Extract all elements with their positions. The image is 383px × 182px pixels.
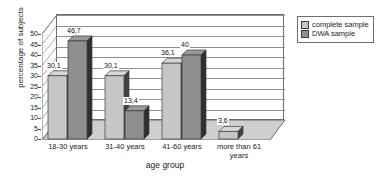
legend-label: complete sample: [312, 21, 369, 29]
bar[interactable]: [68, 36, 92, 139]
bar-front-face: [182, 55, 201, 139]
x-tick-label: 31-40 years: [98, 142, 152, 151]
bar-chart: percentage of subjects 05101520253035404…: [0, 0, 383, 182]
bar-side-face: [87, 36, 92, 139]
y-tick-label: 15: [22, 104, 38, 111]
y-tick-label: 45: [22, 41, 38, 48]
bar-value-label: 46,7: [66, 27, 82, 35]
bar-side-face: [201, 50, 206, 139]
bar-value-label: 3,6: [217, 117, 229, 125]
bar-front-face: [105, 76, 124, 139]
x-axis-ticks: 18-30 years31-40 years41-60 yearsmore th…: [42, 140, 292, 162]
y-tick-label: 25: [22, 83, 38, 90]
bar-value-label: 13,4: [123, 97, 139, 105]
chart-legend: complete sample DWA sample: [297, 16, 374, 43]
y-tick-mark: [38, 55, 41, 56]
x-tick-label: more than 61 years: [212, 142, 266, 160]
legend-item[interactable]: DWA sample: [301, 30, 369, 38]
bar[interactable]: [219, 126, 243, 139]
y-tick-mark: [38, 108, 41, 109]
bar-side-face: [144, 106, 149, 139]
y-tick-mark: [38, 45, 41, 46]
y-tick-label: 0: [22, 135, 38, 142]
y-tick-mark: [38, 76, 41, 77]
legend-item[interactable]: complete sample: [301, 21, 369, 29]
y-tick-mark: [38, 97, 41, 98]
legend-swatch-icon: [301, 21, 309, 29]
y-axis-ticks: 05101520253035404550: [20, 0, 38, 182]
x-axis-title: age group: [40, 160, 290, 170]
legend-label: DWA sample: [312, 30, 355, 38]
bar-front-face: [125, 111, 144, 139]
y-tick-mark: [38, 129, 41, 130]
bar[interactable]: [182, 50, 206, 139]
y-tick-mark: [38, 87, 41, 88]
plot-area: 30,146,730,113,436,1403,6: [42, 14, 286, 140]
bar-value-label: 40: [180, 41, 190, 49]
bar-value-label: 30,1: [46, 62, 62, 70]
legend-swatch-icon: [301, 30, 309, 38]
y-tick-mark: [38, 34, 41, 35]
bar-front-face: [219, 131, 238, 139]
x-tick-label: 41-60 years: [155, 142, 209, 151]
bar-series-container: 30,146,730,113,436,1403,6: [42, 14, 286, 140]
y-tick-label: 40: [22, 51, 38, 58]
bar[interactable]: [125, 106, 149, 139]
y-tick-label: 10: [22, 114, 38, 121]
bar-value-label: 36,1: [160, 49, 176, 57]
bar-front-face: [48, 76, 67, 139]
bar-value-label: 30,1: [103, 62, 119, 70]
y-tick-label: 30: [22, 72, 38, 79]
x-tick-label: 18-30 years: [41, 142, 95, 151]
y-tick-mark: [38, 139, 41, 140]
y-tick-label: 50: [22, 30, 38, 37]
y-tick-mark: [38, 118, 41, 119]
y-tick-mark: [38, 66, 41, 67]
y-tick-label: 35: [22, 62, 38, 69]
bar-front-face: [162, 63, 181, 139]
y-tick-label: 5: [22, 125, 38, 132]
bar-front-face: [68, 41, 87, 139]
y-tick-label: 20: [22, 93, 38, 100]
